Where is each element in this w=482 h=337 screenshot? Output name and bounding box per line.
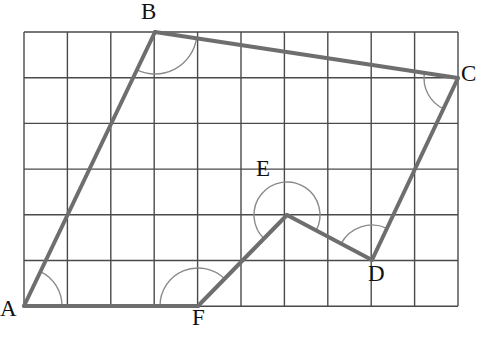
vertex-label-a: A [0, 297, 17, 320]
edge-de [287, 215, 372, 260]
vertex-label-e: E [256, 157, 270, 180]
vertex-label-b: B [141, 0, 156, 23]
geometry-diagram [0, 0, 482, 337]
figure-canvas: A B C D E F [0, 0, 482, 337]
vertex-label-c: C [461, 62, 476, 85]
edge-bc [155, 32, 458, 78]
vertex-label-d: D [368, 262, 385, 285]
angle-arc-e [254, 182, 320, 239]
angle-arc-b [137, 38, 197, 74]
vertex-label-f: F [192, 306, 205, 329]
angle-arc-a [40, 272, 62, 306]
